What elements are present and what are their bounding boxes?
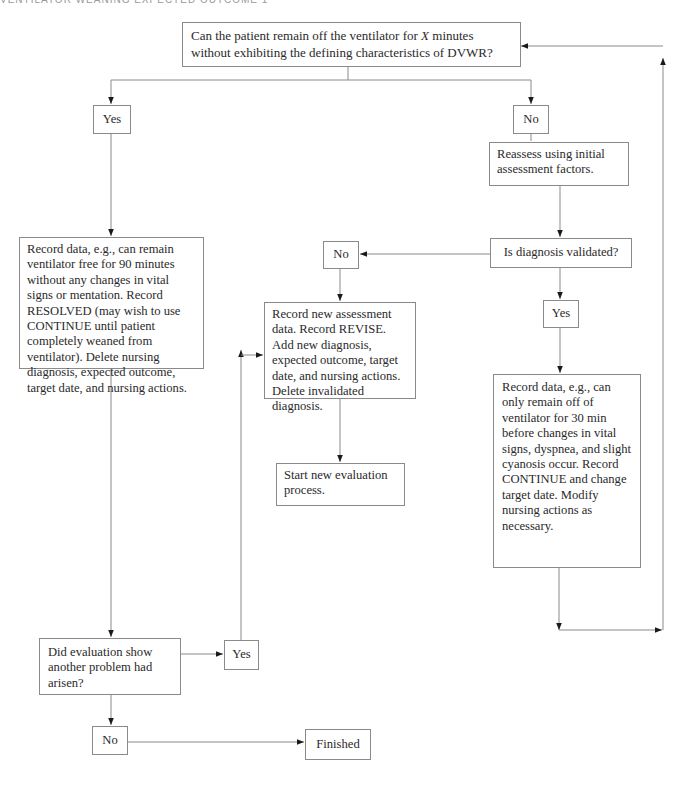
reassess-node: Reassess using initial assessment factor… [489, 142, 629, 186]
yes-node-bottom: Yes [224, 640, 259, 670]
yes-node-left: Yes [93, 105, 131, 134]
finished-node: Finished [305, 729, 371, 760]
no-node-bottom: No [92, 726, 128, 755]
record-revise-node: Record new assessment data. Record REVIS… [264, 302, 416, 399]
record-resolved-node: Record data, e.g., can remain ventilator… [19, 237, 204, 369]
question-text-pre: Can the patient remain off the ventilato… [191, 28, 421, 43]
variable-x: X [421, 28, 429, 43]
question-node-remain-off-ventilator: Can the patient remain off the ventilato… [182, 22, 521, 67]
is-diagnosis-validated-node: Is diagnosis validated? [490, 238, 632, 268]
start-new-evaluation-node: Start new evaluation process. [276, 463, 405, 506]
record-continue-node: Record data, e.g., can only remain off o… [493, 374, 641, 568]
no-node-right: No [513, 105, 549, 134]
did-evaluation-node: Did evaluation show another problem had … [39, 638, 181, 695]
yes-node-right: Yes [543, 300, 579, 328]
no-node-mid: No [323, 241, 359, 269]
